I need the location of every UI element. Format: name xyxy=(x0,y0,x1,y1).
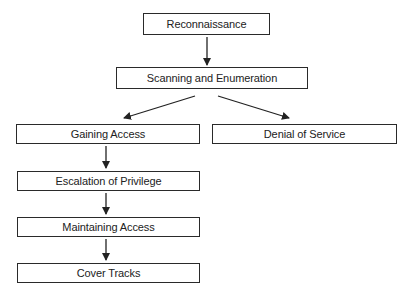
arrow-scan-to-dos xyxy=(218,96,289,118)
node-label: Cover Tracks xyxy=(77,267,141,279)
node-maintaining-access: Maintaining Access xyxy=(17,217,200,237)
node-escalation-of-privilege: Escalation of Privilege xyxy=(17,171,200,191)
node-label: Maintaining Access xyxy=(62,221,154,233)
node-label: Gaining Access xyxy=(71,128,145,140)
node-label: Escalation of Privilege xyxy=(56,175,162,187)
arrow-scan-to-gain xyxy=(124,96,195,118)
node-denial-of-service: Denial of Service xyxy=(212,124,397,144)
node-label: Reconnaissance xyxy=(167,18,247,30)
node-label: Scanning and Enumeration xyxy=(147,72,277,84)
node-scanning-and-enumeration: Scanning and Enumeration xyxy=(116,67,308,89)
node-reconnaissance: Reconnaissance xyxy=(143,13,270,35)
node-gaining-access: Gaining Access xyxy=(16,124,200,144)
connector-arrows xyxy=(0,0,411,294)
node-cover-tracks: Cover Tracks xyxy=(17,263,200,283)
node-label: Denial of Service xyxy=(264,128,345,140)
